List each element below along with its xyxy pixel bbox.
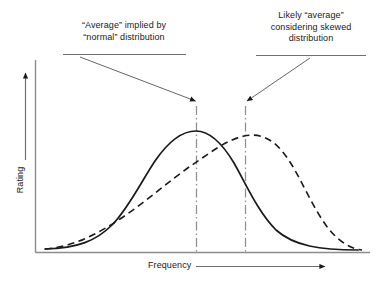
chart-figure: “Average” implied by “normal” distributi… (0, 0, 379, 284)
y-axis-title: Rating (15, 152, 25, 208)
annotation-skewed-average: Likely “average” considering skewed dist… (253, 10, 369, 45)
annotation-left-leader-line (80, 57, 196, 101)
curve-normal-distribution (45, 131, 358, 250)
x-axis-title: Frequency (148, 260, 191, 270)
annotation-normal-average: “Average” implied by “normal” distributi… (62, 20, 186, 43)
curve-skewed-distribution (45, 135, 362, 250)
annotation-right-leader-line (247, 58, 310, 101)
